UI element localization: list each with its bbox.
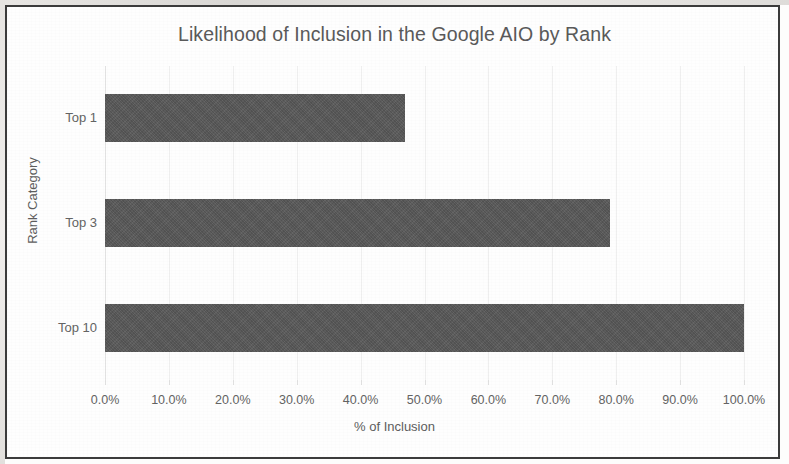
tick-mark — [233, 380, 234, 385]
x-tick-label: 0.0% — [91, 393, 120, 407]
gridline — [744, 66, 745, 380]
y-tick-label: Top 3 — [31, 215, 97, 230]
x-tick-label: 80.0% — [598, 393, 633, 407]
tick-mark — [552, 380, 553, 385]
x-tick-label: 50.0% — [407, 393, 442, 407]
plot-area — [105, 66, 744, 380]
bar-series — [105, 66, 744, 380]
chart-page: Likelihood of Inclusion in the Google AI… — [0, 0, 789, 464]
tick-mark — [297, 380, 298, 385]
bar — [105, 199, 610, 247]
tick-mark — [425, 380, 426, 385]
x-tick-label: 10.0% — [151, 393, 186, 407]
tick-mark — [680, 380, 681, 385]
x-tick-label: 20.0% — [215, 393, 250, 407]
x-axis-title: % of Inclusion — [7, 419, 782, 434]
bar-row — [105, 199, 610, 247]
tick-mark — [744, 380, 745, 385]
bar-row — [105, 304, 744, 352]
x-tick-label: 40.0% — [343, 393, 378, 407]
bar-row — [105, 94, 405, 142]
y-tick-label: Top 10 — [31, 320, 97, 335]
x-tick-label: 70.0% — [535, 393, 570, 407]
tick-mark — [488, 380, 489, 385]
y-axis-title: Rank Category — [25, 131, 40, 271]
x-tick-label: 100.0% — [723, 393, 765, 407]
chart-frame: Likelihood of Inclusion in the Google AI… — [5, 5, 780, 459]
x-tick-label: 60.0% — [471, 393, 506, 407]
y-tick-label: Top 1 — [31, 110, 97, 125]
tick-mark — [616, 380, 617, 385]
bar — [105, 94, 405, 142]
chart-title: Likelihood of Inclusion in the Google AI… — [7, 23, 782, 46]
x-tick-label: 90.0% — [662, 393, 697, 407]
tick-mark — [169, 380, 170, 385]
tick-mark — [361, 380, 362, 385]
tick-mark — [105, 380, 106, 385]
x-tick-label: 30.0% — [279, 393, 314, 407]
bar — [105, 304, 744, 352]
